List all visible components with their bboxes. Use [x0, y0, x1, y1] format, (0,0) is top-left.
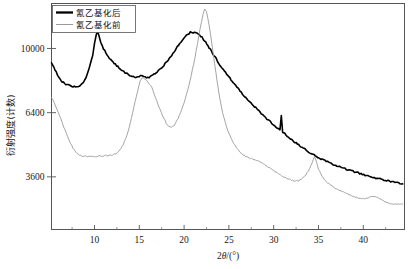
x-tick-label: 40 [359, 235, 369, 245]
x-tick-label: 20 [179, 235, 189, 245]
x-tick-label: 25 [224, 235, 234, 245]
x-tick-label: 10 [90, 235, 100, 245]
y-tick-label: 6400 [26, 108, 45, 118]
x-tick-label: 15 [135, 235, 145, 245]
y-axis-tick-labels: 1000064003600 [21, 44, 45, 182]
y-tick-label: 3600 [26, 172, 45, 182]
x-axis-title: 2θ/(°) [217, 251, 239, 262]
x-tick-label: 35 [314, 235, 324, 245]
chart-canvas: 10152025303540 1000064003600 2θ/(°) 衍射强度… [0, 0, 415, 269]
xrd-diffraction-chart: 10152025303540 1000064003600 2θ/(°) 衍射强度… [0, 0, 415, 269]
chart-legend: 氰乙基化后 氰乙基化前 [53, 6, 136, 33]
y-axis-title-text: 衍射强度(计数) [5, 94, 16, 155]
y-axis-title: 衍射强度(计数) [5, 94, 16, 155]
legend-label-before: 氰乙基化前 [76, 20, 121, 30]
x-axis-title-suffix: /(°) [226, 251, 239, 262]
x-tick-label: 30 [269, 235, 279, 245]
x-axis-tick-labels: 10152025303540 [90, 235, 369, 245]
legend-label-after: 氰乙基化后 [76, 8, 121, 18]
svg-text:2θ/(°): 2θ/(°) [217, 251, 239, 262]
y-tick-label: 10000 [21, 44, 45, 54]
